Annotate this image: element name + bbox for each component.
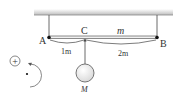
ceiling (34, 9, 173, 15)
label-dist-cb: 2m (118, 49, 129, 58)
label-a: A (39, 35, 47, 46)
beam-diagram: A B C m 1m 2m M + (0, 0, 180, 101)
label-hanging-mass: M (80, 85, 89, 94)
label-b: B (160, 38, 167, 49)
dimension-arc-cb (86, 40, 156, 44)
point-a-dot (47, 36, 51, 40)
point-b-dot (155, 36, 159, 40)
label-bar-mass: m (117, 25, 124, 36)
plus-sign: + (12, 56, 18, 67)
hanging-ball (76, 64, 94, 82)
sign-convention: + (10, 56, 42, 88)
label-c: C (81, 25, 88, 36)
rotation-arrow-icon (30, 64, 42, 87)
beam-bar (49, 36, 157, 39)
pivot-dot-icon (26, 73, 28, 75)
dimension-arc-ac (50, 40, 84, 43)
label-dist-ac: 1m (61, 47, 72, 56)
